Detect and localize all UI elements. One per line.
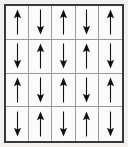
spin-cell[interactable]	[76, 74, 99, 108]
spin-cell[interactable]	[29, 107, 52, 141]
spin-cell[interactable]	[6, 40, 29, 74]
arrow-up-icon	[82, 43, 91, 69]
arrow-up-icon	[36, 111, 45, 137]
spin-lattice-figure	[0, 0, 128, 147]
arrow-down-icon	[82, 77, 91, 103]
arrow-down-icon	[106, 111, 115, 137]
spin-cell[interactable]	[29, 40, 52, 74]
arrow-up-icon	[106, 9, 115, 35]
arrow-up-icon	[59, 77, 68, 103]
spin-cell[interactable]	[76, 6, 99, 40]
spin-cell[interactable]	[6, 107, 29, 141]
spin-cell[interactable]	[76, 107, 99, 141]
spin-cell[interactable]	[99, 107, 122, 141]
arrow-down-icon	[36, 77, 45, 103]
spin-cell[interactable]	[29, 6, 52, 40]
spin-cell[interactable]	[99, 40, 122, 74]
arrow-up-icon	[106, 77, 115, 103]
spin-lattice-grid	[4, 4, 124, 143]
arrow-up-icon	[36, 43, 45, 69]
spin-cell[interactable]	[6, 6, 29, 40]
arrow-down-icon	[13, 43, 22, 69]
arrow-down-icon	[82, 9, 91, 35]
arrow-down-icon	[106, 43, 115, 69]
arrow-up-icon	[59, 9, 68, 35]
spin-cell[interactable]	[52, 74, 75, 108]
spin-cell[interactable]	[6, 74, 29, 108]
arrow-up-icon	[82, 111, 91, 137]
arrow-down-icon	[36, 9, 45, 35]
arrow-down-icon	[59, 111, 68, 137]
arrow-down-icon	[13, 111, 22, 137]
arrow-up-icon	[13, 9, 22, 35]
spin-cell[interactable]	[76, 40, 99, 74]
spin-cell[interactable]	[29, 74, 52, 108]
spin-cell[interactable]	[52, 40, 75, 74]
spin-cell[interactable]	[99, 74, 122, 108]
spin-cell[interactable]	[52, 107, 75, 141]
spin-cell[interactable]	[99, 6, 122, 40]
spin-cell[interactable]	[52, 6, 75, 40]
arrow-down-icon	[59, 43, 68, 69]
arrow-up-icon	[13, 77, 22, 103]
